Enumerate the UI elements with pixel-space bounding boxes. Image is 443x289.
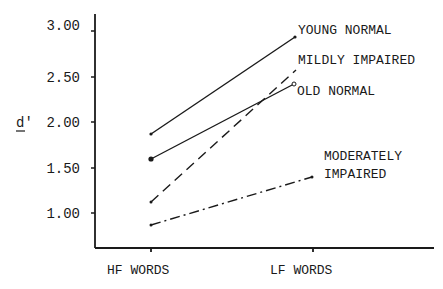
y-tick-label: 3.00 [46, 18, 80, 34]
series-label-mildly-impaired: MILDLY IMPAIRED [298, 53, 415, 68]
x-category-label: LF WORDS [270, 263, 333, 278]
y-axis-label: d' [16, 115, 33, 131]
series-label-moderately-impaired-line1: MODERATELY [324, 149, 402, 164]
y-tick-label: 2.00 [46, 115, 80, 131]
series-old-normal [148, 82, 296, 162]
y-tick-label: 1.50 [46, 161, 80, 177]
series-label-moderately-impaired-line2: IMPAIRED [324, 167, 387, 182]
y-tick-label: 1.00 [46, 206, 80, 222]
series-mildly-impaired [150, 70, 297, 204]
series-label-old-normal: OLD NORMAL [297, 84, 375, 99]
y-tick-label: 2.50 [46, 70, 80, 86]
x-category-label: HF WORDS [107, 263, 170, 278]
series-moderately-impaired [150, 176, 314, 227]
line-chart: 3.00 2.50 2.00 1.50 1.00 d' HF WORDS LF … [0, 0, 443, 289]
series-label-young-normal: YOUNG NORMAL [298, 23, 392, 38]
